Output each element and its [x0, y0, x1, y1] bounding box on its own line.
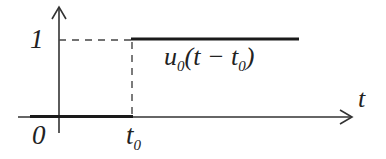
function-name: u — [164, 42, 177, 71]
y-tick-label-one: 1 — [30, 26, 44, 53]
origin-label: 0 — [32, 122, 46, 149]
t-axis-label: t — [358, 86, 365, 112]
function-arg-open: (t − t — [185, 42, 239, 71]
t0-subscript: 0 — [134, 137, 142, 153]
step-function-diagram — [0, 0, 386, 159]
function-arg-subscript: 0 — [238, 58, 246, 74]
function-label: u0(t − t0) — [164, 44, 254, 70]
function-arg-close: ) — [246, 42, 255, 71]
function-name-subscript: 0 — [177, 58, 185, 74]
t0-base: t — [126, 120, 134, 150]
t0-tick-label: t0 — [126, 122, 141, 149]
